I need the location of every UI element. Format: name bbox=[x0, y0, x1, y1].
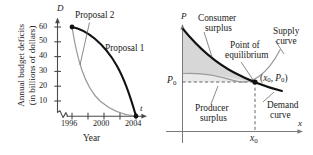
leader-proposal-2 bbox=[80, 23, 90, 66]
left-x-axis-symbol: t bbox=[140, 104, 143, 114]
label-proposal-2: Proposal 2 bbox=[75, 11, 115, 21]
label-p0-sub: 0 bbox=[173, 79, 176, 86]
right-y-axis-symbol: P bbox=[181, 12, 187, 22]
left-xtick-2004: 2004 bbox=[125, 120, 141, 129]
chart-supply-demand-equilibrium: P x P0 x0 (x0, P0) Consumer surplus Poin… bbox=[156, 0, 313, 155]
left-ytick-10: 10 bbox=[39, 97, 47, 106]
left-ytick-40: 40 bbox=[39, 52, 47, 61]
leader-producer-surplus bbox=[211, 86, 218, 104]
right-x-axis-symbol: x bbox=[298, 119, 302, 129]
marker-end-2004 bbox=[134, 114, 139, 119]
label-x0: x0 bbox=[250, 133, 258, 144]
figure-container: D t 60 50 40 30 20 10 1996 2000 2004 Ann… bbox=[0, 0, 313, 155]
label-proposal-1: Proposal 1 bbox=[105, 44, 145, 54]
left-ytick-60: 60 bbox=[39, 23, 47, 32]
label-p0: P0 bbox=[167, 75, 176, 86]
label-consumer-surplus-line2: surplus bbox=[205, 24, 232, 34]
left-y-axis-arrow bbox=[55, 18, 60, 24]
curve-proposal-1 bbox=[72, 27, 136, 116]
left-y-axis-title-line1: Annual budget deficits bbox=[16, 19, 27, 111]
marker-equilibrium bbox=[252, 79, 257, 84]
label-producer-surplus-line2: surplus bbox=[200, 114, 227, 124]
right-x-axis-arrow bbox=[297, 129, 303, 134]
chart-budget-deficit-proposals: D t 60 50 40 30 20 10 1996 2000 2004 Ann… bbox=[0, 0, 156, 155]
label-x0-sub: 0 bbox=[254, 137, 257, 144]
left-ytick-20: 20 bbox=[39, 82, 47, 91]
coord-comma: , bbox=[271, 73, 273, 83]
label-supply-curve-line2: curve bbox=[276, 37, 297, 47]
left-xtick-2000: 2000 bbox=[93, 120, 109, 129]
paren-close: ) bbox=[284, 73, 287, 83]
left-axis-break bbox=[58, 110, 68, 118]
label-equilibrium-line2: equilibrium bbox=[225, 51, 268, 61]
curve-proposal-2 bbox=[72, 27, 136, 116]
label-equilibrium-coordinates: (x0, P0) bbox=[260, 74, 288, 84]
left-xtick-1996: 1996 bbox=[61, 120, 77, 129]
left-ytick-50: 50 bbox=[39, 37, 47, 46]
left-y-axis-title-line2: (in billions of dollars) bbox=[27, 19, 38, 111]
left-y-axis-symbol: D bbox=[57, 4, 64, 14]
marker-start-1996 bbox=[70, 25, 75, 30]
left-x-axis-title: Year bbox=[83, 134, 100, 144]
label-demand-curve-line2: curve bbox=[270, 111, 291, 121]
left-x-axis-arrow bbox=[141, 114, 147, 119]
left-ytick-30: 30 bbox=[39, 67, 47, 76]
